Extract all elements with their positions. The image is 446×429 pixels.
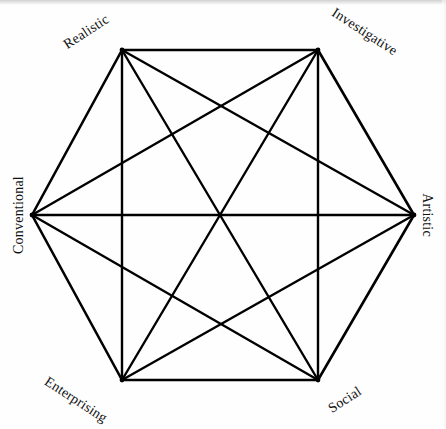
edge-artistic-to-social <box>318 215 414 380</box>
vertex-node-social <box>316 378 321 383</box>
edge-investigative-to-artistic <box>318 50 414 215</box>
vertex-node-conventional <box>30 213 35 218</box>
figure-canvas: RealisticInvestigativeArtisticSocialEnte… <box>0 0 446 429</box>
edge-artistic-to-enterprising <box>122 215 414 380</box>
vertex-node-investigative <box>316 48 321 53</box>
vertex-node-realistic <box>120 48 125 53</box>
vertex-node-enterprising <box>120 378 125 383</box>
vertex-node-artistic <box>412 213 417 218</box>
riasec-hexagon-diagram <box>0 0 446 429</box>
edge-layer <box>32 50 414 380</box>
edge-investigative-to-conventional <box>32 50 318 215</box>
edge-social-to-conventional <box>32 215 318 380</box>
